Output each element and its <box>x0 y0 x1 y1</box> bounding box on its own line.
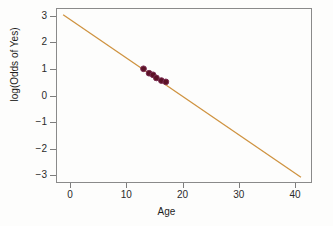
y-tick-label: −3 <box>23 170 47 180</box>
y-tick-mark <box>50 16 56 17</box>
y-tick-mark <box>50 69 56 70</box>
x-tick-mark <box>126 183 127 188</box>
x-tick-mark <box>239 183 240 188</box>
y-axis-title: log(Odds of Yes) <box>9 5 20 125</box>
scatter-plot-figure: 3210−1−2−3 010203040 Age log(Odds of Yes… <box>0 0 333 226</box>
fitted-line <box>63 15 301 178</box>
y-tick-mark <box>50 96 56 97</box>
y-tick-label: 0 <box>23 91 47 101</box>
x-tick-label: 10 <box>111 190 141 200</box>
data-points <box>141 66 169 85</box>
data-point <box>163 79 169 85</box>
y-tick-label: −2 <box>23 144 47 154</box>
plot-area <box>56 8 312 183</box>
y-tick-label: 2 <box>23 37 47 47</box>
regression-line <box>63 15 301 178</box>
y-tick-mark <box>50 42 56 43</box>
x-tick-label: 0 <box>55 190 85 200</box>
y-tick-mark <box>50 149 56 150</box>
x-tick-mark <box>295 183 296 188</box>
plot-canvas <box>57 9 311 182</box>
x-tick-label: 20 <box>168 190 198 200</box>
y-tick-mark <box>50 175 56 176</box>
x-axis-title: Age <box>0 206 333 217</box>
y-tick-label: 3 <box>23 11 47 21</box>
y-tick-mark <box>50 122 56 123</box>
x-tick-label: 40 <box>280 190 310 200</box>
y-tick-label: −1 <box>23 117 47 127</box>
x-tick-mark <box>183 183 184 188</box>
y-tick-label: 1 <box>23 64 47 74</box>
x-tick-label: 30 <box>224 190 254 200</box>
data-point <box>141 66 147 72</box>
x-tick-mark <box>70 183 71 188</box>
